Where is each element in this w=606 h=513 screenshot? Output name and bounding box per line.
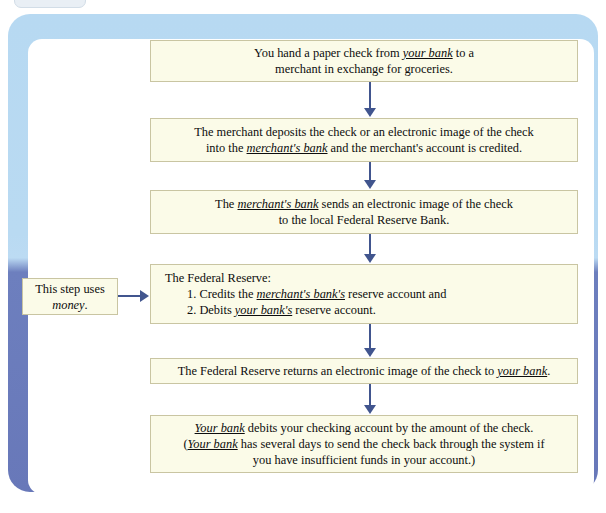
arrow-head-icon — [364, 405, 376, 414]
arrow-head-icon — [364, 254, 376, 263]
step-text-line: to the local Federal Reserve Bank. — [159, 212, 569, 228]
text-run: 1. Credits the — [187, 287, 257, 301]
step-text-line: into the merchant's bank and the merchan… — [159, 140, 569, 156]
flow-arrow-down-4 — [364, 324, 376, 358]
key-term: your bank — [403, 46, 453, 60]
text-run: reserve account and — [345, 287, 446, 301]
text-run: debits your checking account by the amou… — [245, 421, 534, 435]
step-text-line: (Your bank has several days to send the … — [159, 436, 569, 452]
step-text-line: 1. Credits the merchant's bank's reserve… — [165, 286, 569, 302]
flow-step-box-1: You hand a paper check from your bank to… — [150, 40, 578, 82]
key-term: your bank — [497, 364, 547, 378]
text-run: merchant in exchange for groceries. — [275, 62, 453, 76]
text-run: and the merchant's account is credited. — [328, 141, 523, 155]
text-run: . — [85, 298, 88, 312]
step-text-line: The Federal Reserve: — [165, 270, 569, 286]
text-run: to the local Federal Reserve Bank. — [279, 213, 450, 227]
check-clearing-flowchart: You hand a paper check from your bank to… — [0, 0, 606, 513]
text-run: has several days to send the check back … — [238, 437, 545, 451]
flow-arrow-down-1 — [364, 82, 376, 118]
arrow-shaft — [118, 295, 141, 297]
key-term: merchant's bank — [247, 141, 328, 155]
key-term: your bank's — [235, 303, 292, 317]
arrow-shaft — [369, 82, 371, 109]
flow-arrow-down-5 — [364, 384, 376, 415]
step-text-line: you have insufficient funds in your acco… — [159, 452, 569, 468]
text-run: The merchant deposits the check or an el… — [194, 125, 534, 139]
text-run: money — [52, 298, 84, 312]
step-text-line: merchant in exchange for groceries. — [159, 61, 569, 77]
arrow-head-icon — [364, 108, 376, 117]
arrow-shaft — [369, 384, 371, 406]
arrow-shaft — [369, 162, 371, 181]
text-run: into the — [206, 141, 247, 155]
step-text-line: This step uses — [23, 281, 117, 297]
step-text-line: You hand a paper check from your bank to… — [159, 45, 569, 61]
key-term: merchant's bank — [237, 197, 318, 211]
key-term: Your bank — [188, 437, 238, 451]
flow-step-box-3: The merchant's bank sends an electronic … — [150, 190, 578, 234]
text-run: you have insufficient funds in your acco… — [253, 453, 475, 467]
step-text-line: money. — [23, 297, 117, 313]
text-run: The Federal Reserve: — [165, 271, 271, 285]
flow-step-box-6: Your bank debits your checking account b… — [150, 415, 578, 473]
step-text-line: Your bank debits your checking account b… — [159, 420, 569, 436]
text-run: reserve account. — [292, 303, 376, 317]
text-run: The Federal Reserve returns an electroni… — [178, 364, 498, 378]
arrow-shaft — [369, 234, 371, 255]
key-term: Your bank — [195, 421, 245, 435]
step-text-line: The merchant's bank sends an electronic … — [159, 196, 569, 212]
flow-arrow-down-2 — [364, 162, 376, 190]
arrow-shaft — [369, 324, 371, 349]
flow-step-box-5: The Federal Reserve returns an electroni… — [150, 358, 578, 384]
flow-arrow-down-3 — [364, 234, 376, 264]
key-term: merchant's bank's — [257, 287, 345, 301]
text-run: This step uses — [35, 282, 105, 296]
flow-step-box-2: The merchant deposits the check or an el… — [150, 118, 578, 162]
flow-step-box-4: The Federal Reserve:1. Credits the merch… — [150, 264, 578, 324]
arrow-head-icon — [364, 180, 376, 189]
text-run: You hand a paper check from — [254, 46, 403, 60]
text-run: to a — [453, 46, 474, 60]
callout-this-step-uses-money: This step usesmoney. — [22, 278, 118, 315]
step-text-line: The Federal Reserve returns an electroni… — [159, 363, 569, 379]
flow-arrow-right-callout — [118, 290, 150, 302]
text-run: 2. Debits — [187, 303, 235, 317]
arrow-head-icon — [364, 348, 376, 357]
text-run: The — [215, 197, 237, 211]
step-text-line: 2. Debits your bank's reserve account. — [165, 302, 569, 318]
step-text-line: The merchant deposits the check or an el… — [159, 124, 569, 140]
text-run: . — [547, 364, 550, 378]
arrow-head-icon — [140, 290, 149, 302]
text-run: sends an electronic image of the check — [318, 197, 512, 211]
